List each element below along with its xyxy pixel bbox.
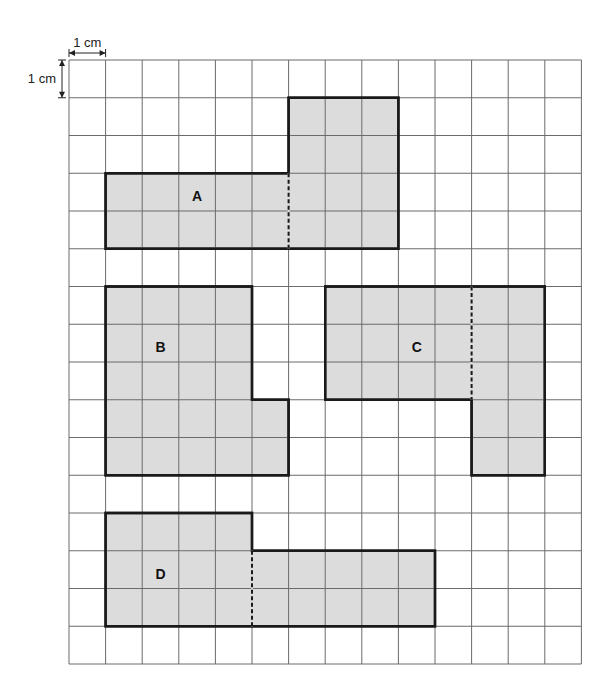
shape-d: D <box>106 513 435 626</box>
arrowhead-icon <box>59 92 65 98</box>
vertical-scale-label: 1 cm <box>28 71 56 86</box>
shape-label: B <box>155 339 165 355</box>
horizontal-scale-label: 1 cm <box>73 35 101 50</box>
shape-label: D <box>155 566 165 582</box>
shape-b: B <box>106 287 289 476</box>
shape-label: A <box>192 188 202 204</box>
arrowhead-icon <box>100 50 106 56</box>
shape-outline <box>106 287 289 476</box>
shape-label: C <box>412 339 422 355</box>
arrowhead-icon <box>59 60 65 66</box>
grid-diagram: ABCD 1 cm 1 cm <box>0 0 613 698</box>
scale-indicator: 1 cm 1 cm <box>28 35 106 98</box>
arrowheads <box>58 49 106 98</box>
arrowhead-icon <box>69 50 75 56</box>
